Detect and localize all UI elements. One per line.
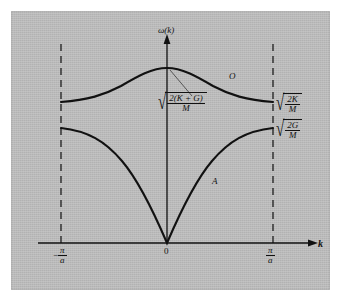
x-axis-label: k xyxy=(318,239,323,249)
omega-optical-edge-annotation: √2KM xyxy=(276,93,302,114)
y-axis xyxy=(164,34,171,243)
omega-acoustic-edge-radical: √2GM xyxy=(276,119,302,140)
x-tick-right-fraction: πa xyxy=(266,246,275,265)
omega-optical-edge-radicand: 2KM xyxy=(283,93,302,114)
acoustic-branch-label: A xyxy=(212,177,218,186)
radical-sign-icon: √ xyxy=(276,92,284,115)
optical-branch-label: O xyxy=(229,72,236,81)
phonon-dispersion-figure: ω(k) k 0 −πa πa O A √2(K + G)M √2KM √2GM xyxy=(0,0,341,304)
x-tick-left-denominator: a xyxy=(58,256,67,265)
omega-acoustic-edge-radicand: 2GM xyxy=(283,119,302,140)
x-tick-right-denominator: a xyxy=(266,256,275,265)
omega-acoustic-edge-annotation: √2GM xyxy=(276,119,302,140)
omega-max-denominator: M xyxy=(167,104,205,113)
omega-max-radicand: 2(K + G)M xyxy=(165,92,207,113)
x-tick-label-right: πa xyxy=(266,246,275,265)
omega-optical-edge-denominator: M xyxy=(285,105,300,114)
radical-sign-icon: √ xyxy=(276,118,284,141)
omega-acoustic-edge-denominator: M xyxy=(285,131,300,140)
x-tick-left-fraction: πa xyxy=(58,246,67,265)
y-axis-label: ω(k) xyxy=(158,26,174,35)
omega-optical-edge-radical: √2KM xyxy=(276,93,302,114)
plot-drawing-layer xyxy=(0,0,341,304)
omega-max-radical: √2(K + G)M xyxy=(158,92,207,113)
x-tick-label-left: −πa xyxy=(53,246,67,265)
x-axis xyxy=(38,240,318,247)
origin-tick-label: 0 xyxy=(164,247,169,256)
omega-max-annotation: √2(K + G)M xyxy=(158,92,207,113)
radical-sign-icon: √ xyxy=(158,91,166,114)
